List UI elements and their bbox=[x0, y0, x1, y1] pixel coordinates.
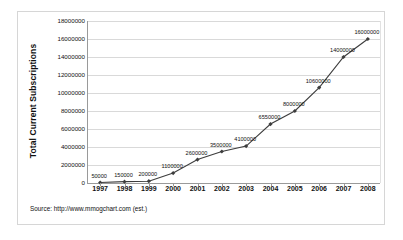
axis-baseline bbox=[88, 183, 380, 184]
data-point-label: 16000000 bbox=[354, 29, 379, 35]
subscriptions-line-series bbox=[88, 21, 380, 183]
y-tick-label: 16000000 bbox=[15, 35, 85, 42]
chart-figure: Total Current Subscriptions 500001500002… bbox=[0, 0, 403, 240]
data-point-label: 200000 bbox=[138, 171, 157, 177]
data-point-label: 1100000 bbox=[161, 163, 182, 169]
y-axis-title: Total Current Subscriptions bbox=[28, 21, 38, 181]
data-point-label: 4100000 bbox=[234, 136, 256, 142]
data-point-marker bbox=[195, 158, 199, 162]
data-point-label: 150000 bbox=[114, 172, 133, 178]
y-tick-label: 10000000 bbox=[15, 89, 85, 96]
y-tick-label: 2000000 bbox=[15, 161, 85, 168]
y-tick-label: 6000000 bbox=[15, 125, 85, 132]
data-point-label: 14000000 bbox=[330, 47, 355, 53]
data-point-label: 10600000 bbox=[306, 78, 331, 84]
plot-area: 5000015000020000011000002600000350000041… bbox=[88, 21, 380, 183]
y-tick-label: 18000000 bbox=[15, 17, 85, 24]
plot-right-border bbox=[380, 21, 381, 183]
data-point-marker bbox=[171, 171, 175, 175]
y-tick-label: 0 bbox=[15, 179, 85, 186]
data-point-label: 50000 bbox=[91, 173, 107, 179]
y-tick-label: 8000000 bbox=[15, 107, 85, 114]
y-tick-label: 14000000 bbox=[15, 53, 85, 60]
data-point-label: 2600000 bbox=[186, 150, 208, 156]
data-point-marker bbox=[220, 149, 224, 153]
x-tick-label: 2008 bbox=[348, 185, 388, 192]
y-tick-label: 12000000 bbox=[15, 71, 85, 78]
data-point-label: 3500000 bbox=[210, 142, 232, 148]
data-point-label: 8000000 bbox=[283, 101, 305, 107]
data-point-label: 6550000 bbox=[259, 114, 281, 120]
y-tick-label: 4000000 bbox=[15, 143, 85, 150]
source-note: Source: http://www.mmogchart.com (est.) bbox=[30, 205, 147, 212]
